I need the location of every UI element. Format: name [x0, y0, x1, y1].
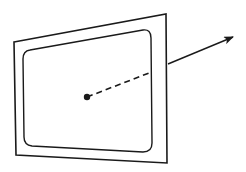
- hidden-normal-segment: [87, 73, 149, 97]
- plane-normal-diagram: [0, 0, 246, 172]
- inner-panel: [23, 30, 152, 152]
- diagram-canvas: [0, 0, 246, 172]
- normal-vector-arrow: [168, 37, 233, 64]
- outer-frame: [14, 14, 167, 163]
- center-point: [84, 94, 90, 100]
